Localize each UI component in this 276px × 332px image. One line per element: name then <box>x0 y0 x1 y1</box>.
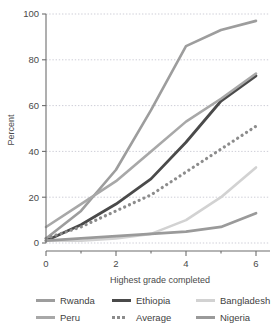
series-line-average <box>46 126 256 238</box>
x-axis-label: Highest grade completed <box>110 275 210 285</box>
series-lines <box>46 21 256 241</box>
x-tick-label-0: 0 <box>43 258 48 269</box>
legend-item-bangladesh[interactable]: Bangladesh <box>196 292 270 309</box>
legend-swatch-average <box>112 316 131 319</box>
y-tick-label-80: 80 <box>28 54 39 65</box>
x-tick-label-4: 4 <box>183 258 188 269</box>
line-chart: 0204060801000246 Percent Highest grade c… <box>0 0 276 292</box>
series-line-ethiopia <box>46 76 256 241</box>
chart-figure: 0204060801000246 Percent Highest grade c… <box>0 0 276 332</box>
gridlines <box>46 14 270 243</box>
x-tick-label-6: 6 <box>253 258 258 269</box>
legend-swatch-rwanda <box>36 299 55 302</box>
legend-swatch-bangladesh <box>196 299 215 302</box>
y-tick-label-20: 20 <box>28 192 39 203</box>
legend-item-rwanda[interactable]: Rwanda <box>36 292 95 309</box>
legend-item-nigeria[interactable]: Nigeria <box>196 309 250 326</box>
legend-item-ethiopia[interactable]: Ethiopia <box>112 292 170 309</box>
y-tick-label-60: 60 <box>28 100 39 111</box>
y-tick-label-100: 100 <box>23 8 39 19</box>
legend-label: Peru <box>60 313 80 323</box>
y-tick-label-40: 40 <box>28 146 39 157</box>
legend-label: Bangladesh <box>220 296 270 306</box>
legend-label: Average <box>136 313 171 323</box>
y-tick-label-0: 0 <box>34 237 39 248</box>
legend-item-average[interactable]: Average <box>112 309 171 326</box>
legend-swatch-ethiopia <box>112 299 131 302</box>
y-axis-label: Percent <box>6 114 16 146</box>
chart-legend: RwandaEthiopiaBangladeshPeruAverageNiger… <box>0 292 276 326</box>
x-tick-label-2: 2 <box>113 258 118 269</box>
series-line-peru <box>46 74 256 227</box>
legend-label: Nigeria <box>220 313 250 323</box>
legend-label: Rwanda <box>60 296 95 306</box>
legend-label: Ethiopia <box>136 296 170 306</box>
legend-item-peru[interactable]: Peru <box>36 309 80 326</box>
legend-swatch-nigeria <box>196 316 215 319</box>
legend-swatch-peru <box>36 316 55 319</box>
